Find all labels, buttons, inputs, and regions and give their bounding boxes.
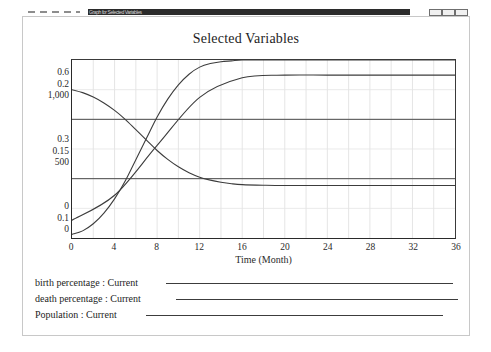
legend-line-death-percentage <box>176 299 458 300</box>
legend-label-death-percentage: death percentage : Current <box>35 292 141 305</box>
y-tick-death-mid: 0.15 <box>23 146 69 158</box>
legend-line-population <box>146 315 443 316</box>
legend-item-death-percentage[interactable]: death percentage : Current <box>33 292 461 307</box>
plot-canvas <box>72 60 455 238</box>
x-tick-label: 24 <box>323 241 333 253</box>
window-title-text: Graph for Selected Variables <box>89 9 142 15</box>
y-axis-bottom-ticks: 0 0.1 0 <box>23 201 69 236</box>
y-tick-population-min: 0 <box>23 224 69 236</box>
x-tick-label: 28 <box>366 241 376 253</box>
close-icon[interactable] <box>455 9 468 16</box>
plot-area[interactable] <box>71 59 456 239</box>
legend-label-birth-percentage: birth percentage : Current <box>35 276 138 289</box>
y-tick-population-max: 1,000 <box>23 90 69 102</box>
y-tick-birth-mid: 0.3 <box>23 134 69 146</box>
y-axis-middle-ticks: 0.3 0.15 500 <box>23 134 69 169</box>
legend-line-birth-percentage <box>166 283 453 284</box>
legend: birth percentage : Current death percent… <box>33 276 461 326</box>
y-axis-top-ticks: 0.6 0.2 1,000 <box>23 67 69 102</box>
legend-item-population[interactable]: Population : Current <box>33 308 461 323</box>
menu-bar-ghost[interactable] <box>28 11 80 13</box>
legend-label-population: Population : Current <box>35 308 117 321</box>
window-controls <box>428 9 468 15</box>
x-axis-labels: 04812162024283236 <box>71 241 456 255</box>
x-tick-label: 32 <box>408 241 418 253</box>
x-tick-label: 8 <box>154 241 159 253</box>
x-tick-label: 4 <box>111 241 116 253</box>
graph-title: Selected Variables <box>23 31 469 47</box>
minimize-icon[interactable] <box>429 9 442 16</box>
x-tick-label: 36 <box>451 241 461 253</box>
x-tick-label: 20 <box>280 241 290 253</box>
x-tick-label: 12 <box>195 241 205 253</box>
legend-item-birth-percentage[interactable]: birth percentage : Current <box>33 276 461 291</box>
y-tick-death-min: 0.1 <box>23 213 69 225</box>
gridlines <box>72 60 455 238</box>
x-tick-label: 0 <box>69 241 74 253</box>
graph-panel: Selected Variables 0.6 0.2 1,000 0.3 0.1… <box>22 16 470 336</box>
x-tick-label: 16 <box>237 241 247 253</box>
y-axis-labels: 0.6 0.2 1,000 0.3 0.15 500 0 0.1 0 <box>23 59 69 239</box>
restore-icon[interactable] <box>442 9 455 16</box>
y-tick-death-max: 0.2 <box>23 79 69 91</box>
y-tick-population-mid: 500 <box>23 157 69 169</box>
y-tick-birth-min: 0 <box>23 201 69 213</box>
window-title-caption: Graph for Selected Variables <box>88 9 410 15</box>
y-tick-birth-max: 0.6 <box>23 67 69 79</box>
application-window: Graph for Selected Variables Selected Va… <box>0 0 491 352</box>
x-axis-title: Time (Month) <box>71 254 456 265</box>
